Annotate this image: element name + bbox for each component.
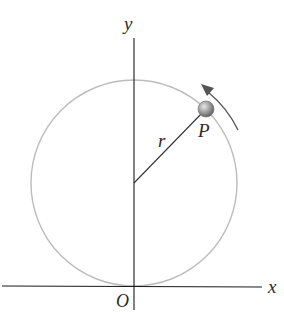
origin-label: O (116, 291, 129, 311)
particle-P (198, 101, 214, 117)
x-axis (2, 286, 262, 287)
y-axis-label: y (122, 13, 133, 34)
radius-line (134, 111, 204, 183)
point-P-label: P (197, 120, 210, 141)
radius-label: r (158, 130, 166, 151)
x-axis-label: x (267, 276, 277, 297)
circular-motion-diagram: y x O r P (0, 0, 284, 312)
